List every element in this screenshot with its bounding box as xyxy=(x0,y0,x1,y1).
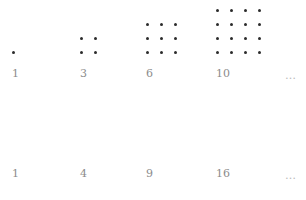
group-count-label: 1 xyxy=(12,68,19,79)
group-count-label: 6 xyxy=(146,68,153,79)
dot xyxy=(244,23,247,26)
dot xyxy=(216,9,219,12)
dot xyxy=(160,23,163,26)
sequence-ellipsis: … xyxy=(285,170,297,181)
dot xyxy=(230,51,233,54)
dot xyxy=(160,37,163,40)
dot-array xyxy=(216,0,272,54)
dot xyxy=(230,37,233,40)
dot xyxy=(174,37,177,40)
dot xyxy=(216,37,219,40)
group-count-label: 10 xyxy=(216,68,230,79)
dot xyxy=(94,37,97,40)
group-count-label: 16 xyxy=(216,168,230,179)
dot xyxy=(174,23,177,26)
group-count-label: 3 xyxy=(80,68,87,79)
dot xyxy=(216,51,219,54)
dot xyxy=(258,37,261,40)
dot xyxy=(160,51,163,54)
dot xyxy=(12,51,15,54)
dot xyxy=(244,51,247,54)
number-pattern-figure: 13610…14916… xyxy=(0,0,306,200)
dot xyxy=(230,23,233,26)
group-count-label: 1 xyxy=(12,168,19,179)
dot xyxy=(80,51,83,54)
dot xyxy=(244,37,247,40)
dot xyxy=(230,9,233,12)
dot xyxy=(258,9,261,12)
dot xyxy=(94,51,97,54)
dot xyxy=(146,51,149,54)
dot-array xyxy=(146,12,188,54)
dot xyxy=(146,23,149,26)
dot xyxy=(258,51,261,54)
dot xyxy=(258,23,261,26)
dot xyxy=(174,51,177,54)
square-number-row: 14916… xyxy=(0,100,306,200)
dot xyxy=(216,23,219,26)
dot-array xyxy=(80,26,108,54)
sequence-ellipsis: … xyxy=(285,70,297,81)
dot xyxy=(244,9,247,12)
dot xyxy=(80,37,83,40)
group-count-label: 4 xyxy=(80,168,87,179)
group-count-label: 9 xyxy=(146,168,153,179)
dot xyxy=(146,37,149,40)
dot-array xyxy=(12,40,26,54)
